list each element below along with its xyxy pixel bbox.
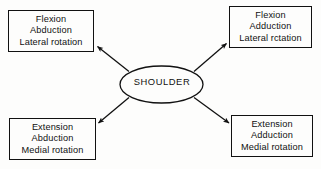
- node-line: Flexion: [36, 14, 66, 25]
- node-box-bottom-right: Extension Adduction Medial rotation: [231, 115, 313, 157]
- node-line: Medial rotation: [241, 142, 303, 153]
- node-line: Extension: [251, 119, 292, 130]
- diagram-canvas: SHOULDER Flexion Abduction Lateral rotat…: [0, 0, 321, 169]
- connector-hub-to-top-right: [194, 44, 227, 72]
- node-box-top-left: Flexion Abduction Lateral rotation: [8, 10, 94, 52]
- connector-hub-to-bottom-left: [99, 98, 130, 124]
- shoulder-hub-label: SHOULDER: [120, 76, 204, 87]
- node-box-bottom-left: Extension Abduction Medial rotation: [9, 118, 96, 160]
- node-line: Adduction: [251, 130, 293, 141]
- node-line: Lateral rctation: [239, 33, 301, 44]
- node-line: Flexion: [255, 10, 285, 21]
- node-line: Adduction: [250, 21, 292, 32]
- node-line: Extension: [32, 122, 73, 133]
- node-line: Medial rotation: [22, 145, 84, 156]
- connector-hub-to-top-left: [98, 47, 130, 72]
- node-line: Abduction: [32, 133, 74, 144]
- node-box-top-right: Flexion Adduction Lateral rctation: [229, 6, 312, 48]
- node-line: Abduction: [30, 25, 72, 36]
- connector-hub-to-bottom-right: [194, 98, 229, 124]
- node-line: Lateral rotation: [20, 37, 83, 48]
